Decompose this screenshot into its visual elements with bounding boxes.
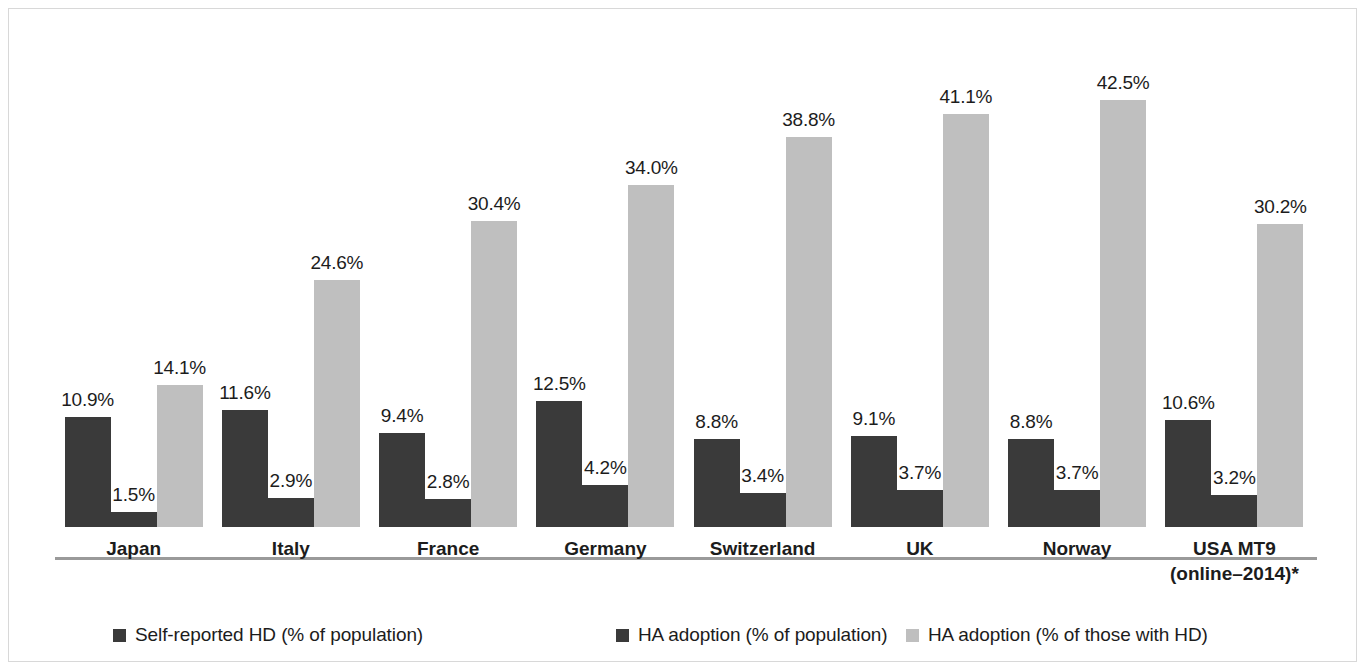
bar-slot: 34.0% xyxy=(628,30,674,527)
bar-slot: 10.6% xyxy=(1165,30,1211,527)
bar-group: 12.5%4.2%34.0% xyxy=(527,30,684,527)
bar[interactable] xyxy=(314,280,360,527)
bar-slot: 3.7% xyxy=(1054,30,1100,527)
category-label-line: (online–2014)* xyxy=(1156,561,1313,586)
bar-value-label: 38.8% xyxy=(782,109,835,131)
bar-value-label: 12.5% xyxy=(533,373,586,395)
bar-slot: 9.4% xyxy=(379,30,425,527)
chart-figure: 10.9%1.5%14.1%11.6%2.9%24.6%9.4%2.8%30.4… xyxy=(0,0,1365,670)
legend-label: HA adoption (% of population) xyxy=(638,624,888,646)
bar-value-label: 11.6% xyxy=(219,382,270,404)
bar-group: 8.8%3.4%38.8% xyxy=(684,30,841,527)
bar-value-label: 1.5% xyxy=(112,484,155,506)
bar[interactable] xyxy=(268,498,314,527)
bar-value-label: 34.0% xyxy=(625,157,678,179)
bar-slot: 1.5% xyxy=(111,30,157,527)
category-label-line: Switzerland xyxy=(684,536,841,561)
category-axis-labels: JapanItalyFranceGermanySwitzerlandUKNorw… xyxy=(55,536,1313,596)
legend-swatch-icon xyxy=(113,629,126,642)
bar[interactable] xyxy=(65,417,111,527)
bar-value-label: 9.4% xyxy=(381,405,424,427)
bar[interactable] xyxy=(582,485,628,527)
legend-swatch-icon xyxy=(616,629,629,642)
bar-slot: 38.8% xyxy=(786,30,832,527)
bar-slot: 42.5% xyxy=(1100,30,1146,527)
bar-value-label: 10.6% xyxy=(1162,392,1215,414)
category-label: Italy xyxy=(212,536,369,561)
category-label-line: Norway xyxy=(999,536,1156,561)
bar-group: 9.1%3.7%41.1% xyxy=(841,30,998,527)
bar[interactable] xyxy=(222,410,268,527)
bar-value-label: 2.9% xyxy=(270,470,313,492)
bar-slot: 4.2% xyxy=(582,30,628,527)
category-label-line: Germany xyxy=(527,536,684,561)
bar[interactable] xyxy=(536,401,582,527)
category-label-line: USA MT9 xyxy=(1156,536,1313,561)
bar-slot: 3.2% xyxy=(1211,30,1257,527)
bar-slot: 10.9% xyxy=(65,30,111,527)
bar-group: 9.4%2.8%30.4% xyxy=(370,30,527,527)
bar-value-label: 30.4% xyxy=(468,193,521,215)
bar[interactable] xyxy=(851,436,897,527)
category-label-line: UK xyxy=(841,536,998,561)
legend-item[interactable]: HA adoption (% of those with HD) xyxy=(906,624,1208,646)
bar-group: 8.8%3.7%42.5% xyxy=(999,30,1156,527)
bar[interactable] xyxy=(628,185,674,527)
bar-value-label: 9.1% xyxy=(853,408,896,430)
legend-item[interactable]: Self-reported HD (% of population) xyxy=(113,624,423,646)
bar-slot: 14.1% xyxy=(157,30,203,527)
bar[interactable] xyxy=(897,490,943,527)
bar-value-label: 3.7% xyxy=(1056,462,1099,484)
bar[interactable] xyxy=(471,221,517,527)
bar[interactable] xyxy=(1211,495,1257,527)
bar-slot: 2.8% xyxy=(425,30,471,527)
bar-value-label: 4.2% xyxy=(584,457,627,479)
bar[interactable] xyxy=(1100,100,1146,527)
bar-slot: 12.5% xyxy=(536,30,582,527)
bar-value-label: 3.4% xyxy=(741,465,784,487)
bar-value-label: 30.2% xyxy=(1254,196,1307,218)
bar-value-label: 3.7% xyxy=(899,462,942,484)
bar[interactable] xyxy=(1257,224,1303,528)
bar-slot: 9.1% xyxy=(851,30,897,527)
bar[interactable] xyxy=(1054,490,1100,527)
bar-value-label: 3.2% xyxy=(1213,467,1256,489)
bar-group: 10.6%3.2%30.2% xyxy=(1156,30,1313,527)
category-label-line: Japan xyxy=(55,536,212,561)
category-label: Germany xyxy=(527,536,684,561)
bar[interactable] xyxy=(1165,420,1211,527)
bar-value-label: 10.9% xyxy=(61,389,114,411)
bar-value-label: 24.6% xyxy=(310,252,363,274)
bar-slot: 8.8% xyxy=(1008,30,1054,527)
bar[interactable] xyxy=(694,439,740,527)
legend-item[interactable]: HA adoption (% of population) xyxy=(616,624,888,646)
bar[interactable] xyxy=(786,137,832,527)
legend-swatch-icon xyxy=(906,629,919,642)
bar[interactable] xyxy=(943,114,989,527)
legend-label: Self-reported HD (% of population) xyxy=(135,624,423,646)
bar[interactable] xyxy=(425,499,471,527)
bar[interactable] xyxy=(740,493,786,527)
bar[interactable] xyxy=(111,512,157,527)
bar-slot: 11.6% xyxy=(222,30,268,527)
category-label: Switzerland xyxy=(684,536,841,561)
category-label-line: Italy xyxy=(212,536,369,561)
category-label: Norway xyxy=(999,536,1156,561)
bar-value-label: 41.1% xyxy=(939,86,992,108)
bar-slot: 30.4% xyxy=(471,30,517,527)
bar-group: 10.9%1.5%14.1% xyxy=(55,30,212,527)
legend-label: HA adoption (% of those with HD) xyxy=(928,624,1208,646)
category-label: USA MT9(online–2014)* xyxy=(1156,536,1313,586)
bar[interactable] xyxy=(379,433,425,527)
category-label: UK xyxy=(841,536,998,561)
bar[interactable] xyxy=(157,385,203,527)
bar-slot: 41.1% xyxy=(943,30,989,527)
bar-slot: 2.9% xyxy=(268,30,314,527)
bar[interactable] xyxy=(1008,439,1054,527)
bar-slot: 30.2% xyxy=(1257,30,1303,527)
bar-value-label: 14.1% xyxy=(153,357,206,379)
bar-group: 11.6%2.9%24.6% xyxy=(212,30,369,527)
bar-value-label: 42.5% xyxy=(1097,72,1150,94)
bar-slot: 24.6% xyxy=(314,30,360,527)
bar-slot: 3.4% xyxy=(740,30,786,527)
